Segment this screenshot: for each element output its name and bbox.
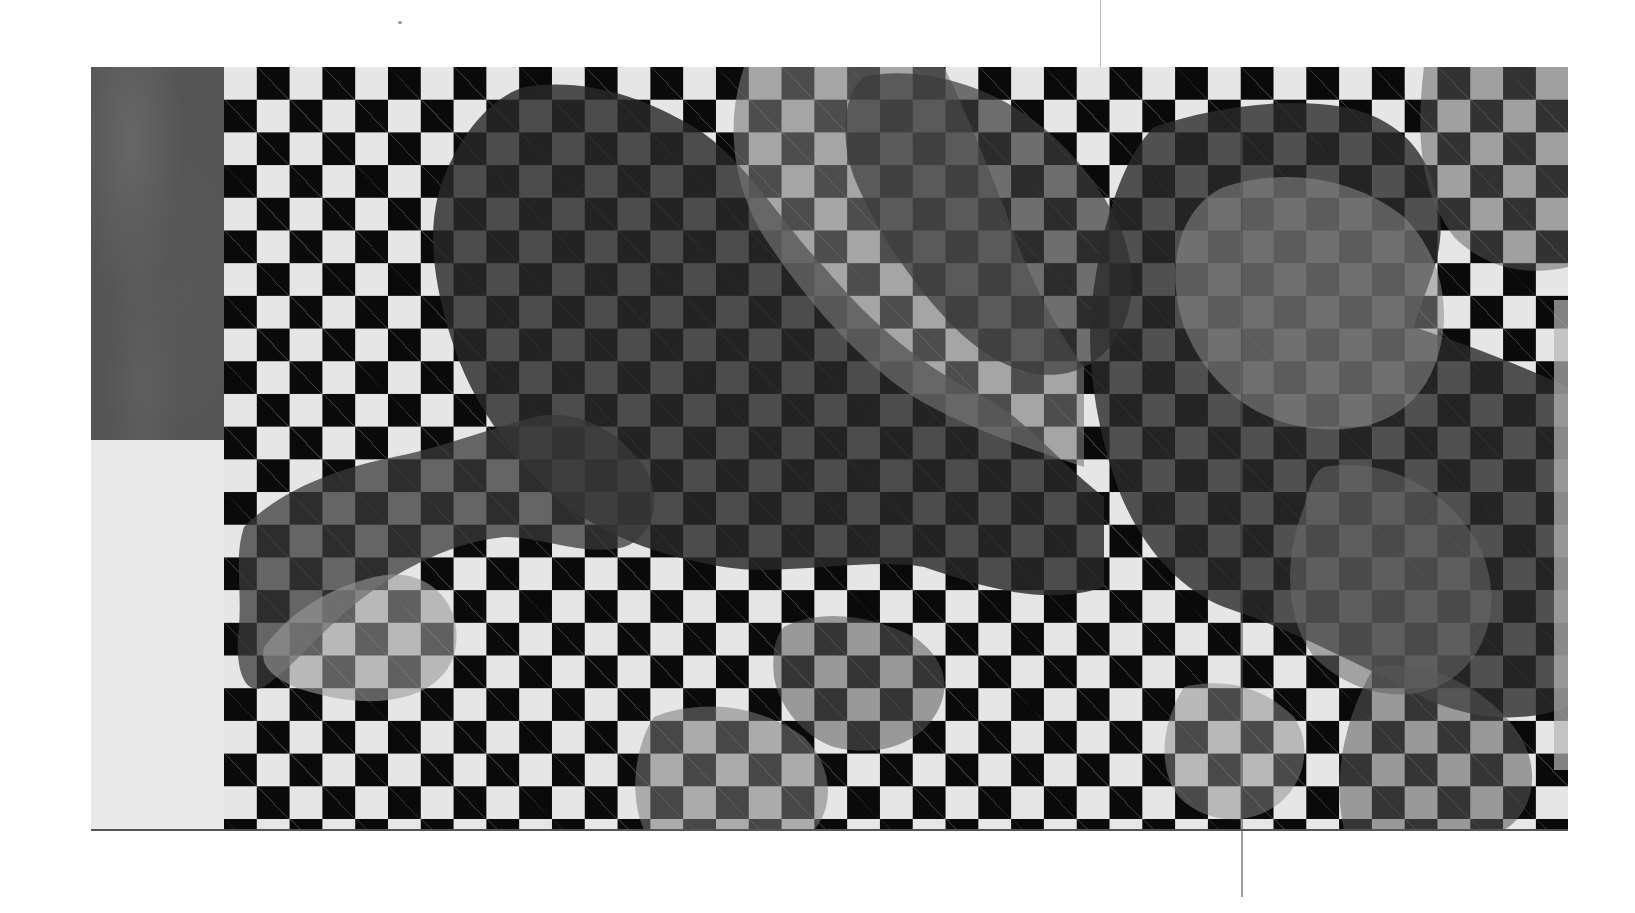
light-panel (91, 440, 224, 830)
artwork-bottom-edge (91, 829, 1568, 831)
organic-overlay-shapes (224, 67, 1568, 830)
artwork-photo (91, 67, 1568, 830)
right-mass (1090, 67, 1568, 717)
hairline-mark (1100, 0, 1101, 67)
dark-textured-panel (91, 67, 224, 440)
dust-speck (398, 21, 402, 24)
vertical-seam-line (1241, 134, 1243, 897)
lower-left-swoosh (238, 415, 655, 701)
right-edge-strip (1554, 300, 1568, 770)
